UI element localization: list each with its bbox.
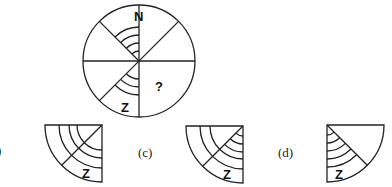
missing-sector-marker: ? (155, 79, 163, 94)
top-sector-label: N (134, 9, 143, 24)
option-c-figure[interactable]: Z (186, 126, 243, 183)
option-a-label: ) (0, 143, 1, 158)
z-sector-arcs (115, 74, 139, 95)
option-d-letter: Z (335, 167, 343, 182)
bottom-sector-label: Z (121, 100, 129, 115)
option-c-letter: Z (223, 167, 231, 182)
option-d-label: (d) (278, 145, 293, 160)
option-b-letter: Z (82, 166, 90, 181)
puzzle-figure: N Z ? ) Z (c) Z (d) (0, 0, 392, 187)
option-b-figure[interactable]: Z (45, 125, 102, 182)
main-circle: N Z ? (83, 5, 195, 117)
option-d-figure[interactable]: Z (327, 125, 384, 182)
option-c-label: (c) (138, 145, 152, 160)
